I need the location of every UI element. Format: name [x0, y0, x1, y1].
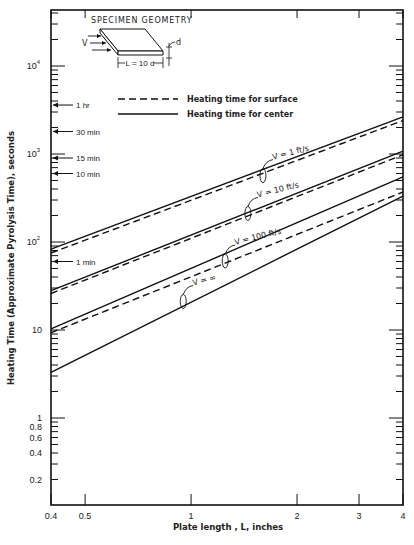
series-group-marker: [222, 254, 228, 268]
series-line: [51, 117, 403, 249]
y-axis-title: Heating Time (Approximate Pyrolysis Time…: [6, 131, 16, 385]
plot-axes: [51, 10, 403, 505]
time-marker-label: 15 min: [76, 154, 100, 163]
y-tick-exponent: 4: [37, 59, 41, 65]
legend-label: Heating time for surface: [187, 95, 298, 104]
x-axis-ticks: 0.40.51234: [45, 10, 406, 521]
series-group-marker: [260, 169, 266, 183]
arrow-left-icon: [53, 103, 58, 108]
legend: Heating time for surfaceHeating time for…: [118, 95, 298, 119]
y-tick-label: 104: [27, 59, 41, 71]
series-line: [51, 177, 403, 329]
arrow-left-icon: [53, 129, 58, 134]
legend-label: Heating time for center: [187, 110, 293, 119]
arrow-right-icon: [102, 41, 106, 45]
annotation-leader: [183, 285, 193, 294]
y-tick-label: 0.2: [29, 475, 42, 485]
series-annotation: V = 10 ft/s: [256, 180, 300, 199]
y-tick-label: 10: [32, 325, 42, 335]
time-marker-label: 10 min: [76, 170, 100, 179]
velocity-label: V: [82, 39, 88, 48]
length-label: L = 10 d: [126, 59, 155, 68]
y-tick-exponent: 3: [37, 147, 41, 153]
series-line: [51, 192, 403, 333]
series-line: [51, 151, 403, 291]
y-tick-label: 0.4: [29, 448, 42, 458]
arrow-left-icon: [53, 171, 58, 176]
plot-frame: [51, 10, 403, 505]
series-line: [51, 155, 403, 294]
arrow-right-icon: [97, 34, 101, 38]
x-tick-label: 0.5: [79, 511, 92, 521]
arrow-left-icon: [53, 156, 58, 161]
specimen-geometry-inset: SPECIMEN GEOMETRYVdL = 10 d: [82, 16, 192, 68]
time-marker-label: 30 min: [76, 128, 100, 137]
arrow-right-icon: [107, 48, 111, 52]
x-tick-label: 1: [189, 511, 194, 521]
time-marker-label: 1 hr: [76, 101, 90, 110]
y-tick-label: 102: [27, 235, 41, 247]
thickness-label: d: [176, 38, 181, 47]
x-tick-label: 2: [295, 511, 300, 521]
x-tick-label: 0.4: [45, 511, 58, 521]
plate-front-face: [118, 51, 163, 55]
thickness-leader: [169, 42, 175, 46]
y-axis-ticks: 1041031021010.80.60.40.2: [27, 13, 403, 484]
y-tick-exponent: 2: [37, 235, 41, 241]
y-tick-label: 0.6: [29, 433, 42, 443]
annotation-leader: [248, 197, 258, 206]
time-marker-label: 1 min: [76, 258, 96, 267]
heating-time-chart: 1041031021010.80.60.40.2 0.40.51234 1 hr…: [0, 0, 414, 545]
y-tick-label: 0.8: [29, 422, 42, 432]
series-annotation: V = 100 ft/s: [233, 227, 282, 247]
arrow-left-icon: [53, 259, 58, 264]
series-line: [51, 196, 403, 372]
inset-title: SPECIMEN GEOMETRY: [91, 16, 192, 25]
x-tick-label: 4: [400, 511, 405, 521]
series-line: [51, 121, 403, 253]
x-axis-title: Plate length , L, inches: [173, 522, 283, 532]
data-series: [51, 117, 403, 372]
x-tick-label: 3: [357, 511, 362, 521]
y-tick-label: 103: [27, 147, 41, 159]
